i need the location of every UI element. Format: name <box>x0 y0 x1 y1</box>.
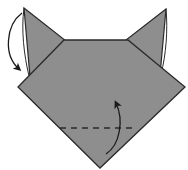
origami-diagram <box>0 0 188 170</box>
left-ear-fold-arrow <box>8 13 22 69</box>
cat-fold-diagram <box>0 0 188 170</box>
